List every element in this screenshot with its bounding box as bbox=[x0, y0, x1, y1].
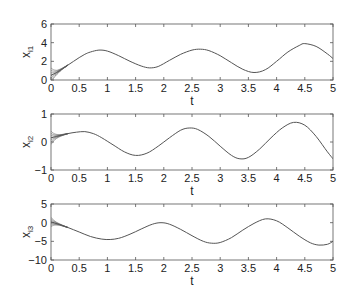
x-tick-label: 1 bbox=[104, 82, 110, 94]
y-axis-label: xi3 bbox=[19, 225, 35, 238]
subplot-3: 00.511.522.533.544.55−10−505txi3 bbox=[19, 198, 336, 288]
x-tick-label: 0.5 bbox=[72, 82, 87, 94]
transient-bundle bbox=[51, 131, 68, 144]
x-tick-label: 2.5 bbox=[184, 172, 199, 184]
axes-frame bbox=[51, 114, 333, 170]
x-tick-label: 4 bbox=[274, 262, 280, 274]
y-tick-label: −10 bbox=[28, 254, 47, 266]
axes-frame bbox=[51, 204, 333, 260]
x-tick-label: 2.5 bbox=[184, 262, 199, 274]
x-axis-label: t bbox=[190, 184, 194, 198]
x-tick-label: 1 bbox=[104, 172, 110, 184]
x-tick-label: 1.5 bbox=[128, 262, 143, 274]
y-tick-label: 0 bbox=[41, 74, 47, 86]
y-axis-label: xi2 bbox=[19, 135, 35, 148]
axes-frame bbox=[51, 24, 333, 80]
x-tick-label: 3.5 bbox=[241, 172, 256, 184]
y-tick-label: 5 bbox=[41, 198, 47, 210]
x-tick-label: 4 bbox=[274, 172, 280, 184]
subplot-1: 00.511.522.533.544.550246txi1 bbox=[19, 18, 336, 108]
x-tick-label: 2 bbox=[161, 82, 167, 94]
x-tick-label: 0 bbox=[48, 172, 54, 184]
y-tick-label: 6 bbox=[41, 18, 47, 30]
x-tick-label: 1 bbox=[104, 262, 110, 274]
x-tick-label: 3 bbox=[217, 262, 223, 274]
y-tick-label: 2 bbox=[41, 55, 47, 67]
y-tick-label: 0 bbox=[41, 217, 47, 229]
x-tick-label: 0.5 bbox=[72, 172, 87, 184]
x-tick-label: 2.5 bbox=[184, 82, 199, 94]
x-tick-label: 4.5 bbox=[297, 172, 312, 184]
x-axis-label: t bbox=[190, 94, 194, 108]
series-line-x_i2 bbox=[51, 122, 333, 159]
figure: 00.511.522.533.544.550246txi100.511.522.… bbox=[0, 0, 355, 301]
x-tick-label: 0.5 bbox=[72, 262, 87, 274]
x-tick-label: 2 bbox=[161, 172, 167, 184]
y-tick-label: 1 bbox=[41, 108, 47, 120]
y-tick-label: −5 bbox=[34, 235, 47, 247]
x-tick-label: 3.5 bbox=[241, 82, 256, 94]
x-tick-label: 4.5 bbox=[297, 262, 312, 274]
x-tick-label: 0 bbox=[48, 82, 54, 94]
x-axis-label: t bbox=[190, 274, 194, 288]
x-tick-label: 5 bbox=[330, 262, 336, 274]
x-tick-label: 3.5 bbox=[241, 262, 256, 274]
x-tick-label: 4.5 bbox=[297, 82, 312, 94]
x-tick-label: 1.5 bbox=[128, 82, 143, 94]
y-axis-label: xi1 bbox=[19, 45, 35, 58]
x-tick-label: 0 bbox=[48, 262, 54, 274]
series-line-x_i1 bbox=[51, 44, 333, 76]
x-tick-label: 4 bbox=[274, 82, 280, 94]
x-tick-label: 5 bbox=[330, 172, 336, 184]
y-tick-label: 0 bbox=[41, 136, 47, 148]
x-tick-label: 1.5 bbox=[128, 172, 143, 184]
subplot-2: 00.511.522.533.544.55−101txi2 bbox=[19, 108, 336, 198]
y-tick-label: 4 bbox=[41, 37, 47, 49]
y-tick-label: −1 bbox=[34, 164, 47, 176]
series-line-x_i3 bbox=[51, 219, 333, 245]
x-tick-label: 3 bbox=[217, 82, 223, 94]
x-tick-label: 2 bbox=[161, 262, 167, 274]
x-tick-label: 3 bbox=[217, 172, 223, 184]
x-tick-label: 5 bbox=[330, 82, 336, 94]
